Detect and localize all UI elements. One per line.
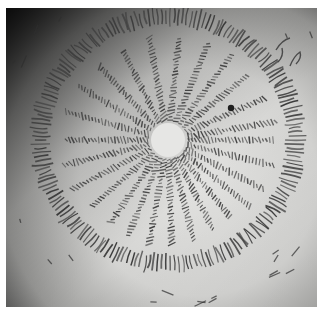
circular-diagram [6, 8, 317, 307]
ink-dot [228, 105, 234, 111]
center-hub-circle [151, 123, 185, 157]
manuscript-photo [6, 8, 317, 307]
